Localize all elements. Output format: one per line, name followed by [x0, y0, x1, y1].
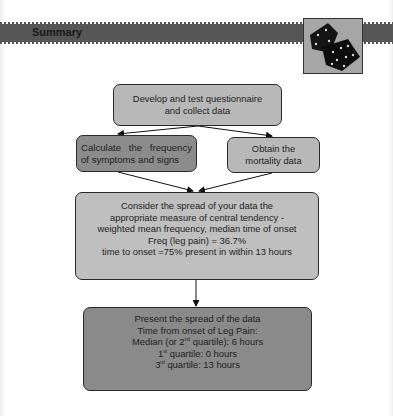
present-line-2: Time from onset of Leg Pain: — [132, 325, 263, 337]
node-present: Present the spread of the data Time from… — [83, 307, 312, 391]
q3-line: 3rd quartile: 13 hours — [132, 359, 263, 371]
q1-post: quartile: 0 hours — [167, 348, 237, 359]
node-calculate: Calculate the frequency of symptoms and … — [76, 135, 197, 172]
freq-leg-pain: Freq (leg pain) = 36.7% — [98, 235, 297, 247]
node-obtain: Obtain the mortality data — [227, 137, 320, 173]
node-calculate-text: Calculate the frequency of symptoms and … — [81, 142, 192, 165]
node-consider: Consider the spread of your data the app… — [75, 192, 319, 280]
time-to-onset: time to onset =75% present in within 13 … — [98, 246, 297, 258]
present-line-1: Present the spread of the data — [132, 313, 263, 325]
median-pre: Median (or 2 — [132, 336, 185, 347]
node-develop-text: Develop and test questionnaire and colle… — [133, 93, 262, 116]
consider-line-3: weighted mean frequency, median time of … — [98, 223, 297, 235]
median-post: quartile): 6 hours — [190, 336, 263, 347]
node-obtain-text: Obtain the mortality data — [245, 143, 301, 166]
node-develop: Develop and test questionnaire and colle… — [113, 84, 282, 126]
q1-line: 1st quartile: 0 hours — [132, 348, 263, 360]
arrow-develop-obtain — [198, 126, 272, 136]
consider-line-2: appropriate measure of central tendency … — [98, 212, 297, 224]
median-line: Median (or 2nd quartile): 6 hours — [132, 336, 263, 348]
arrow-develop-calculate — [118, 126, 198, 134]
q3-post: quartile: 13 hours — [165, 359, 240, 370]
consider-line-1: Consider the spread of your data the — [98, 200, 297, 212]
arrow-calculate-consider — [118, 172, 193, 191]
arrow-obtain-consider — [199, 173, 272, 191]
